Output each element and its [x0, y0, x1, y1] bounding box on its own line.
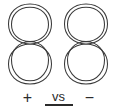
- coil-figures-area: [0, 0, 115, 88]
- label-versus: vs: [45, 90, 73, 106]
- coil-figure-right: [59, 0, 113, 88]
- label-right-polarity-minus: −: [73, 90, 107, 106]
- polarity-labels-row: + vs −: [0, 86, 115, 110]
- label-left-polarity-plus: +: [11, 90, 45, 106]
- coil-figure-left: [3, 0, 57, 88]
- diagram-root: + vs −: [0, 0, 115, 110]
